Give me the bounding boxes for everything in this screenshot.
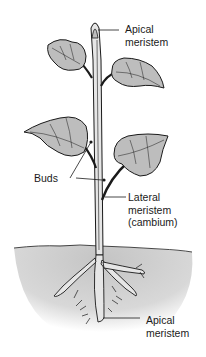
label-line: meristem <box>125 36 168 49</box>
label-line: (cambium) <box>128 216 178 229</box>
plant-illustration <box>0 0 206 357</box>
label-line: meristem <box>146 327 189 340</box>
label-lateral-meristem: Lateral meristem (cambium) <box>128 191 178 229</box>
label-apical-meristem-shoot: Apical meristem <box>125 23 168 48</box>
petiole-lower-right <box>102 162 128 200</box>
label-line: Lateral <box>128 191 178 204</box>
leaf-lower-left <box>24 117 88 156</box>
label-line: meristem <box>128 204 178 217</box>
bud-lower <box>102 178 105 181</box>
leaf-upper-left <box>48 40 86 71</box>
label-apical-meristem-root: Apical meristem <box>146 314 189 339</box>
label-line: Apical <box>146 314 189 327</box>
plant-diagram: Apical meristem Buds Lateral meristem (c… <box>0 0 206 357</box>
label-buds: Buds <box>34 172 58 185</box>
label-line: Apical <box>125 23 168 36</box>
